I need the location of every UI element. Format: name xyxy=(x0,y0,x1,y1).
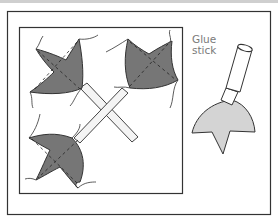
leaf-top-left xyxy=(30,35,98,108)
glue-stick-tube xyxy=(226,46,252,92)
label-line-2: stick xyxy=(192,45,216,56)
leaf-bottom-left xyxy=(25,114,96,188)
glue-stick xyxy=(192,43,255,154)
glue-stick-label: Glue stick xyxy=(192,34,216,56)
crossed-sticks xyxy=(74,83,138,143)
illustration xyxy=(0,0,278,221)
